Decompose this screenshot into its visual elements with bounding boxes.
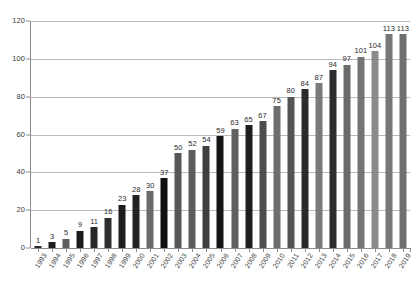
x-tick-label: 1998 (103, 252, 117, 269)
bar (133, 195, 140, 248)
bar-value-label: 52 (188, 140, 197, 148)
bar-group: 87 (312, 21, 326, 248)
x-tick-label: 1997 (89, 252, 103, 269)
x-tick-label: 1995 (61, 252, 75, 269)
bar-value-label: 5 (64, 229, 68, 237)
bar-group: 97 (340, 21, 354, 248)
x-tick-label: 2000 (131, 252, 145, 269)
bar-value-label: 87 (314, 74, 323, 82)
bar (259, 121, 266, 248)
x-tick-label: 2003 (173, 252, 187, 269)
y-tick-label: 60 (16, 131, 25, 139)
bar-group: 5 (59, 21, 73, 248)
bar-group: 75 (270, 21, 284, 248)
x-tick-label: 2001 (145, 252, 159, 269)
x-tick-label: 1999 (117, 252, 131, 269)
bar-value-label: 50 (174, 144, 183, 152)
bar-group: 52 (185, 21, 199, 248)
bar-group: 3 (45, 21, 59, 248)
bar-value-label: 113 (397, 25, 409, 33)
bar (217, 136, 224, 248)
y-tick-mark (26, 210, 30, 211)
bar-value-label: 63 (230, 119, 239, 127)
x-tick-label: 2018 (384, 252, 398, 269)
bar (329, 70, 336, 248)
x-axis: 1993199419951996199719981999200020012002… (31, 252, 410, 304)
bar-value-label: 11 (90, 218, 98, 226)
bar (105, 218, 112, 248)
bar-value-label: 101 (354, 47, 367, 55)
y-tick-label: 0 (21, 244, 25, 252)
bar-group: 30 (143, 21, 157, 248)
bar-group: 104 (368, 21, 382, 248)
x-tick-label: 2011 (286, 252, 300, 269)
bar-value-label: 65 (244, 116, 253, 124)
y-tick-mark (26, 134, 30, 135)
x-tick-label: 2008 (244, 252, 258, 269)
x-tick-label: 2009 (258, 252, 272, 269)
bar (231, 129, 238, 248)
x-tick-label: 1993 (33, 252, 47, 269)
x-tick-label: 1994 (47, 252, 61, 269)
bar-value-label: 23 (118, 195, 127, 203)
bar-value-label: 104 (368, 42, 381, 50)
bar-group: 63 (228, 21, 242, 248)
y-tick-mark (26, 172, 30, 173)
bar-group: 113 (382, 21, 396, 248)
bar (315, 83, 322, 248)
bar (203, 146, 210, 248)
bar-value-label: 94 (329, 61, 338, 69)
x-tick-label: 2005 (201, 252, 215, 269)
bar (399, 34, 406, 248)
bar-value-label: 3 (50, 233, 54, 241)
x-tick-label: 2002 (159, 252, 173, 269)
x-tick-label: 2016 (356, 252, 370, 269)
x-tick-label: 2013 (314, 252, 328, 269)
bar (357, 57, 364, 248)
bar-value-label: 80 (286, 87, 295, 95)
y-axis: 020406080100120 (0, 0, 30, 260)
bar (371, 51, 378, 248)
bar-group: 1 (31, 21, 45, 248)
y-tick-mark (26, 58, 30, 59)
bar-group: 50 (171, 21, 185, 248)
bar-value-label: 28 (132, 186, 141, 194)
y-tick-label: 80 (16, 93, 25, 101)
bar-value-label: 30 (146, 182, 155, 190)
bar-value-label: 59 (216, 127, 225, 135)
bar-value-label: 97 (343, 55, 352, 63)
x-tick-label: 2012 (300, 252, 314, 269)
bar-group: 11 (87, 21, 101, 248)
bar (189, 150, 196, 248)
bar-group: 28 (129, 21, 143, 248)
bar (63, 239, 70, 248)
bar-group: 101 (354, 21, 368, 248)
bar-group: 23 (115, 21, 129, 248)
y-tick-label: 120 (12, 17, 25, 25)
x-tick-label: 2004 (187, 252, 201, 269)
bar-group: 65 (242, 21, 256, 248)
bar (161, 178, 168, 248)
bars-series: 1359111623283037505254596365677580848794… (31, 21, 410, 248)
bar-value-label: 84 (300, 80, 309, 88)
bar (91, 227, 98, 248)
bar (245, 125, 252, 248)
x-tick-label: 2019 (398, 252, 412, 269)
x-tick-mark (410, 248, 411, 252)
bar-group: 84 (298, 21, 312, 248)
bar (273, 106, 280, 248)
bar-group: 9 (73, 21, 87, 248)
x-tick-label: 2006 (216, 252, 230, 269)
bar-value-label: 1 (36, 237, 40, 245)
bar (119, 205, 126, 249)
bar-value-label: 37 (160, 169, 169, 177)
x-tick-label: 1996 (75, 252, 89, 269)
bar-group: 59 (213, 21, 227, 248)
y-tick-label: 20 (16, 206, 25, 214)
bar-value-label: 75 (272, 97, 281, 105)
x-tick-label: 2017 (370, 252, 384, 269)
bar-group: 80 (284, 21, 298, 248)
y-tick-label: 100 (12, 55, 25, 63)
bar-group: 94 (326, 21, 340, 248)
bar-group: 54 (199, 21, 213, 248)
